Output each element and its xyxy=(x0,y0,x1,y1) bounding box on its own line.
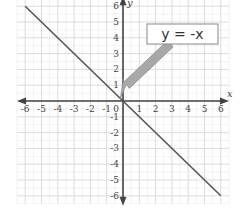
x-tick-label: 2 xyxy=(153,104,159,114)
y-axis-label: y xyxy=(126,0,133,8)
y-axis-arrow-up-icon xyxy=(120,0,127,5)
y-tick-label: 5 xyxy=(113,17,119,27)
y-tick-label: 2 xyxy=(113,64,119,74)
x-tick-label: -3 xyxy=(70,104,79,114)
y-tick-label: 3 xyxy=(113,49,119,59)
x-axis-label: x xyxy=(227,88,233,99)
x-tick-label: 3 xyxy=(169,104,175,114)
y-axis-arrow-down-icon xyxy=(120,197,127,206)
y-tick-label: -5 xyxy=(110,175,119,185)
x-tick-label: -6 xyxy=(21,104,30,114)
x-tick-label: 6 xyxy=(218,104,224,114)
y-tick-label: 6 xyxy=(113,1,119,11)
y-tick-label: -2 xyxy=(110,128,119,138)
y-tick-label: -3 xyxy=(110,143,119,153)
y-tick-label: 1 xyxy=(113,80,119,90)
y-tick-label: -6 xyxy=(110,191,119,201)
x-tick-label: -2 xyxy=(86,104,95,114)
y-tick-label: 4 xyxy=(113,33,119,43)
x-tick-label: -5 xyxy=(37,104,46,114)
x-tick-label: 4 xyxy=(185,104,191,114)
origin-label: 0 xyxy=(113,104,119,114)
annotation-text: y = -x xyxy=(161,26,203,42)
coordinate-plane-chart: xy -6-5-4-3-2-1123456654321-1-2-3-4-5-60… xyxy=(0,0,242,212)
x-tick-label: 5 xyxy=(202,104,208,114)
y-tick-label: -4 xyxy=(110,159,119,169)
x-tick-label: -4 xyxy=(53,104,62,114)
x-tick-label: 1 xyxy=(136,104,142,114)
annotation-callout: y = -x xyxy=(120,24,218,98)
